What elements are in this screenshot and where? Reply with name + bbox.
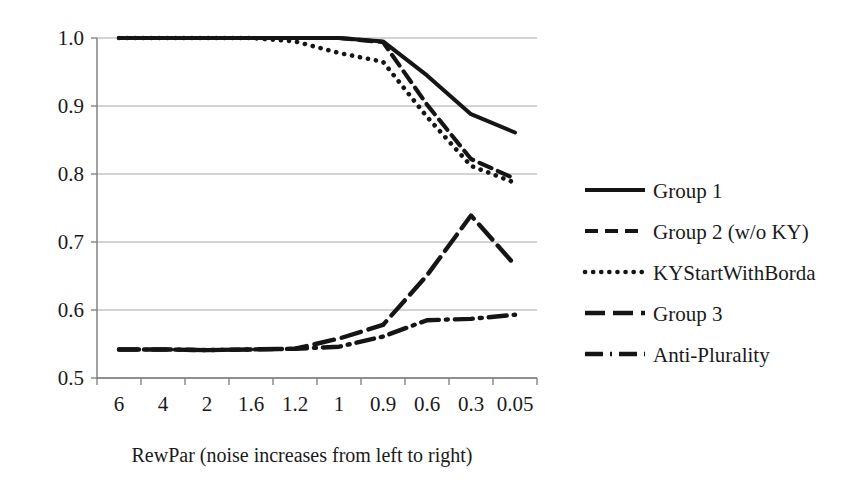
y-axis-line-group bbox=[91, 38, 97, 378]
x-tick-label-0.3: 0.3 bbox=[458, 392, 484, 416]
gridlines-group bbox=[97, 38, 537, 378]
y-tick-label-0.5: 0.5 bbox=[58, 366, 84, 390]
y-tick-labels-group: 0.50.60.70.80.91.0 bbox=[58, 26, 84, 390]
x-tick-label-1.6: 1.6 bbox=[238, 392, 264, 416]
data-series-group bbox=[119, 38, 515, 350]
legend-group: Group 1Group 2 (w/o KY)KYStartWithBordaG… bbox=[585, 179, 816, 367]
legend-label-4: Anti-Plurality bbox=[653, 343, 770, 367]
legend-item-1[interactable]: Group 2 (w/o KY) bbox=[585, 220, 809, 244]
y-tick-label-0.6: 0.6 bbox=[58, 298, 84, 322]
y-tick-label-1.0: 1.0 bbox=[58, 26, 84, 50]
x-tick-labels-group: 6421.61.210.90.60.30.05 bbox=[114, 392, 534, 416]
series-line-3 bbox=[119, 215, 515, 350]
legend-label-2: KYStartWithBorda bbox=[653, 261, 816, 285]
x-tick-label-2: 2 bbox=[202, 392, 213, 416]
series-line-2 bbox=[119, 38, 515, 183]
x-tick-label-0.9: 0.9 bbox=[370, 392, 396, 416]
legend-item-0[interactable]: Group 1 bbox=[585, 179, 722, 203]
x-tick-label-1: 1 bbox=[334, 392, 345, 416]
y-tick-label-0.9: 0.9 bbox=[58, 94, 84, 118]
legend-label-0: Group 1 bbox=[653, 179, 722, 203]
x-tick-label-4: 4 bbox=[158, 392, 169, 416]
legend-item-2[interactable]: KYStartWithBorda bbox=[585, 261, 816, 285]
x-tick-label-6: 6 bbox=[114, 392, 125, 416]
y-tick-label-0.7: 0.7 bbox=[58, 230, 84, 254]
series-line-1 bbox=[119, 38, 515, 179]
x-axis-line-group bbox=[97, 378, 537, 385]
series-line-0 bbox=[119, 38, 515, 133]
y-tick-label-0.8: 0.8 bbox=[58, 162, 84, 186]
x-axis-title: RewPar (noise increases from left to rig… bbox=[131, 444, 472, 467]
legend-label-1: Group 2 (w/o KY) bbox=[653, 220, 809, 244]
legend-item-3[interactable]: Group 3 bbox=[585, 302, 722, 326]
x-tick-label-0.6: 0.6 bbox=[414, 392, 440, 416]
x-tick-label-0.05: 0.05 bbox=[497, 392, 534, 416]
legend-label-3: Group 3 bbox=[653, 302, 722, 326]
chart-plot-svg: 0.50.60.70.80.91.0 6421.61.210.90.60.30.… bbox=[0, 0, 868, 492]
x-tick-label-1.2: 1.2 bbox=[282, 392, 308, 416]
chart-figure: 0.50.60.70.80.91.0 6421.61.210.90.60.30.… bbox=[0, 0, 868, 492]
legend-item-4[interactable]: Anti-Plurality bbox=[585, 343, 770, 367]
